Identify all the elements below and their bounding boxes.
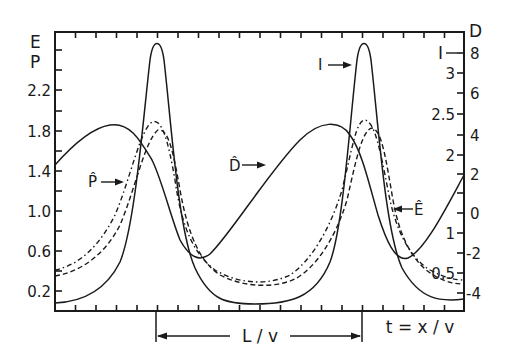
curve-I bbox=[55, 44, 464, 305]
y-right-I-label: 2.5 bbox=[431, 106, 455, 124]
left-ticks bbox=[55, 50, 62, 291]
y-left-label: 2.2 bbox=[27, 82, 51, 100]
arrow-right-icon bbox=[257, 162, 266, 169]
arrow-right-icon bbox=[115, 179, 124, 186]
label-curve-P: P̂ bbox=[88, 172, 97, 191]
chart: E P 2.2 1.8 1.4 1.0 0.6 0.2 D 8 6 4 2 0 … bbox=[0, 0, 512, 363]
right-ticks bbox=[457, 53, 464, 293]
right-axis-D-labels: 8 6 4 2 0 -2 -4 bbox=[466, 45, 481, 303]
annotation-P: P̂ bbox=[88, 172, 124, 191]
period-label: L / v bbox=[242, 326, 278, 346]
y-right-D-label: -2 bbox=[466, 245, 481, 263]
y-right-D-label: 4 bbox=[470, 127, 480, 145]
annotation-I: I bbox=[318, 56, 352, 74]
y-right-D-label: 6 bbox=[470, 85, 480, 103]
annotation-D: D̂ bbox=[229, 156, 266, 175]
y-left-label: 1.4 bbox=[27, 163, 51, 181]
arrow-right-icon bbox=[351, 333, 361, 340]
x-axis-label: t = x / v bbox=[386, 317, 454, 337]
y-right-I-label: 3 bbox=[445, 65, 455, 83]
y-left-label: 1.8 bbox=[27, 123, 51, 141]
y-right-D-label: 8 bbox=[470, 45, 480, 63]
arrow-left-icon bbox=[157, 333, 167, 340]
left-axis-labels: 2.2 1.8 1.4 1.0 0.6 0.2 bbox=[27, 82, 51, 301]
y-right-I-label: 1 bbox=[445, 225, 455, 243]
axis-title-P: P bbox=[30, 52, 40, 72]
arrow-right-icon bbox=[343, 62, 352, 69]
curve-E bbox=[55, 128, 464, 285]
y-right-D-label: 2 bbox=[470, 166, 480, 184]
annotation-E: Ê bbox=[393, 200, 423, 219]
y-right-D-label: -4 bbox=[466, 285, 481, 303]
axis-title-E: E bbox=[30, 32, 41, 52]
label-curve-E: Ê bbox=[414, 200, 423, 219]
y-left-label: 1.0 bbox=[27, 203, 51, 221]
arrow-left-icon bbox=[393, 206, 402, 213]
right-axis-I-labels: 3 2.5 2 1 0.5 bbox=[431, 65, 455, 283]
y-left-label: 0.6 bbox=[27, 243, 51, 261]
curves bbox=[55, 44, 464, 305]
label-curve-I: I bbox=[318, 56, 322, 74]
axis-title-D: D bbox=[469, 21, 482, 41]
y-right-I-label: 2 bbox=[445, 147, 455, 165]
axis-title-I: I bbox=[438, 43, 443, 63]
y-right-D-label: 0 bbox=[470, 205, 480, 223]
label-curve-D: D̂ bbox=[229, 156, 241, 175]
y-left-label: 0.2 bbox=[27, 283, 51, 301]
